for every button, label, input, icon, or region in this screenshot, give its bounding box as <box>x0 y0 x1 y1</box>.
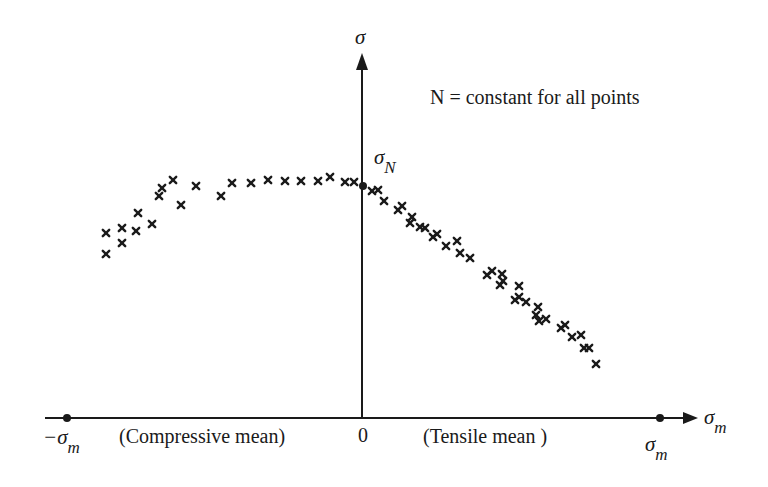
data-point-x-marker <box>569 334 575 340</box>
data-points <box>103 174 599 367</box>
pos-sigma-m-label: σm <box>645 432 668 457</box>
sigma-n-subscript: N <box>384 158 395 177</box>
annotation-text: N = constant for all points <box>430 86 640 109</box>
x-axis-label: σm <box>704 405 727 430</box>
data-point-x-marker <box>193 183 199 189</box>
y-axis-arrowhead <box>356 53 368 70</box>
data-point-x-marker <box>178 202 184 208</box>
data-point-x-marker <box>422 225 428 231</box>
x-axis-subscript: m <box>714 418 726 437</box>
data-point-x-marker <box>159 185 165 191</box>
goodman-diagram-figure: σ N = constant for all points σN −σm (Co… <box>0 0 768 487</box>
scatter-plot-canvas <box>0 0 768 487</box>
sigma-n-label: σN <box>374 145 396 170</box>
data-point-x-marker <box>149 221 155 227</box>
data-point-x-marker <box>119 225 125 231</box>
data-point-x-marker <box>523 299 529 305</box>
data-point-x-marker <box>119 240 125 246</box>
data-point-x-marker <box>516 283 522 289</box>
data-point-x-marker <box>578 332 584 338</box>
data-point-x-marker <box>298 178 304 184</box>
x-axis-symbol: σ <box>704 405 714 429</box>
data-point-x-marker <box>499 271 505 277</box>
tensile-mean-label: (Tensile mean ) <box>423 425 547 448</box>
neg-sigma-m-label: −σm <box>43 425 80 450</box>
data-point-x-marker <box>170 177 176 183</box>
pos-sigma-m-symbol: σ <box>645 432 655 456</box>
data-point-x-marker <box>218 193 224 199</box>
data-point-x-marker <box>381 198 387 204</box>
neg-sigma-m-symbol: −σ <box>43 425 68 449</box>
data-point-x-marker <box>351 179 357 185</box>
data-point-x-marker <box>315 178 321 184</box>
data-point-x-marker <box>229 180 235 186</box>
data-point-x-marker <box>248 180 254 186</box>
data-point-x-marker <box>133 228 139 234</box>
data-point-x-marker <box>327 174 333 180</box>
pos-sigma-m-subscript: m <box>655 445 667 464</box>
data-point-x-marker <box>399 203 405 209</box>
compressive-mean-label: (Compressive mean) <box>119 425 285 448</box>
neg-sigma-m-subscript: m <box>68 438 80 457</box>
data-point-x-marker <box>156 193 162 199</box>
data-point-x-marker <box>135 210 141 216</box>
x-axis-arrowhead <box>683 412 698 424</box>
data-point-x-marker <box>342 179 348 185</box>
data-point-x-marker <box>454 238 460 244</box>
data-point-x-marker <box>543 316 549 322</box>
data-point-x-marker <box>282 178 288 184</box>
origin-zero-label: 0 <box>358 424 368 447</box>
data-point-x-marker <box>467 255 473 261</box>
data-point-x-marker <box>103 230 109 236</box>
data-point-x-marker <box>593 361 599 367</box>
sigma-n-dot <box>359 182 367 190</box>
data-point-x-marker <box>535 304 541 310</box>
data-point-x-marker <box>457 250 463 256</box>
data-point-x-marker <box>265 177 271 183</box>
y-axis-label: σ <box>355 25 365 50</box>
data-point-x-marker <box>407 220 413 226</box>
data-point-x-marker <box>103 251 109 257</box>
neg-sigma-m-dot <box>63 414 71 422</box>
pos-sigma-m-dot <box>656 414 664 422</box>
sigma-n-symbol: σ <box>374 145 384 169</box>
data-point-x-marker <box>586 345 592 351</box>
data-point-x-marker <box>443 243 449 249</box>
data-point-x-marker <box>375 187 381 193</box>
